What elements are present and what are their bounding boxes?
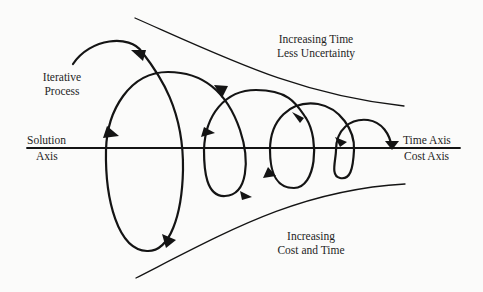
top-region-label: Increasing Time Less Uncertainty — [266, 32, 366, 60]
time-axis-label: Time Axis — [403, 133, 451, 147]
arrow-icon-3 — [103, 126, 119, 138]
solution-axis-label-top: Solution — [27, 133, 66, 147]
diagram-canvas: Iterative Process Increasing Time Less U… — [0, 0, 483, 292]
bottom-region-line-1: Increasing — [268, 229, 354, 243]
arrow-icon-1 — [131, 50, 146, 61]
iterative-process-line-2: Process — [35, 84, 89, 98]
top-region-line-1: Increasing Time — [266, 32, 366, 46]
iterative-process-label: Iterative Process — [35, 70, 89, 98]
bottom-region-label: Increasing Cost and Time — [268, 229, 354, 257]
bottom-region-line-2: Cost and Time — [268, 243, 354, 257]
arrow-icon-5 — [240, 191, 252, 200]
iterative-spiral — [73, 41, 392, 251]
top-region-line-2: Less Uncertainty — [266, 46, 366, 60]
solution-axis-label-bottom: Axis — [36, 149, 58, 163]
iterative-process-line-1: Iterative — [35, 70, 89, 84]
cost-axis-label: Cost Axis — [404, 149, 449, 163]
